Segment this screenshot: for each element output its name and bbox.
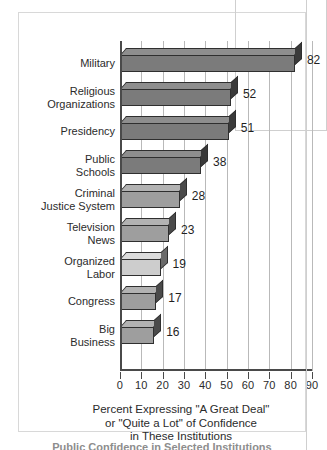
x-tick: [248, 372, 249, 379]
y-axis-line: [120, 41, 122, 371]
gridline: [312, 41, 313, 371]
bar-side-face: [201, 144, 208, 167]
bar-front-face: [120, 157, 201, 174]
bar: [120, 55, 295, 72]
axis-caption: Percent Expressing "A Great Deal" or "Qu…: [39, 403, 323, 444]
category-label-line: Religious: [19, 85, 115, 98]
bar-series: 825251382823191716: [120, 41, 312, 371]
bar-side-face: [169, 212, 176, 235]
bar-value-label: 82: [307, 53, 320, 67]
x-tick: [227, 372, 228, 379]
x-axis-tick-labels: 0102030405060708090: [120, 379, 312, 397]
bar-front-face: [120, 293, 156, 310]
bar-value-label: 51: [241, 121, 254, 135]
x-tick-label: 90: [299, 379, 325, 391]
category-label-line: Criminal: [19, 187, 115, 200]
bar: [120, 157, 201, 174]
category-label-line: Justice System: [19, 200, 115, 213]
x-tick: [205, 372, 206, 379]
bar: [120, 259, 161, 276]
category-label: PublicSchools: [19, 153, 115, 178]
bar-top-face: [120, 252, 167, 259]
bar-row: 16: [120, 319, 312, 353]
bar: [120, 225, 169, 242]
category-label-line: Public: [19, 153, 115, 166]
category-label-line: Presidency: [19, 125, 115, 138]
category-label: Presidency: [19, 125, 115, 138]
bar-top-face: [120, 82, 237, 89]
bar-top-face: [120, 116, 235, 123]
category-label-line: Labor: [19, 268, 115, 281]
bar-front-face: [120, 123, 229, 140]
bar-side-face: [295, 42, 302, 65]
category-label-line: Organized: [19, 255, 115, 268]
bar-value-label: 28: [192, 189, 205, 203]
bar: [120, 293, 156, 310]
x-tick: [291, 372, 292, 379]
bar-front-face: [120, 259, 161, 276]
bar: [120, 191, 180, 208]
x-tick: [120, 372, 121, 379]
caption-line-1: Percent Expressing "A Great Deal": [39, 403, 323, 417]
category-label-line: Television: [19, 221, 115, 234]
category-label: Military: [19, 57, 115, 70]
bar-row: 28: [120, 183, 312, 217]
category-label: CriminalJustice System: [19, 187, 115, 212]
bar-value-label: 16: [166, 325, 179, 339]
x-tick: [141, 372, 142, 379]
bar-row: 52: [120, 81, 312, 115]
x-axis-ticks: [120, 371, 312, 379]
bar-row: 51: [120, 115, 312, 149]
bar-row: 82: [120, 47, 312, 81]
x-tick: [269, 372, 270, 379]
bar-row: 38: [120, 149, 312, 183]
category-label-line: Military: [19, 57, 115, 70]
bar-side-face: [156, 280, 163, 303]
bar: [120, 327, 154, 344]
category-label-line: Schools: [19, 166, 115, 179]
plot-area: 825251382823191716 0102030405060708090: [120, 41, 312, 371]
category-label-line: Organizations: [19, 98, 115, 111]
bar-side-face: [154, 314, 161, 337]
bar-front-face: [120, 225, 169, 242]
x-tick: [184, 372, 185, 379]
category-label: ReligiousOrganizations: [19, 85, 115, 110]
bar-front-face: [120, 55, 295, 72]
bar-value-label: 52: [243, 87, 256, 101]
bar: [120, 123, 229, 140]
bar-value-label: 17: [168, 291, 181, 305]
category-label: Congress: [19, 295, 115, 308]
bar-top-face: [120, 150, 207, 157]
figure-title-cropped: Public Confidence in Selected Institutio…: [0, 441, 324, 450]
category-label-line: Business: [19, 336, 115, 349]
category-axis-labels: MilitaryReligiousOrganizationsPresidency…: [19, 41, 115, 371]
bar-top-face: [120, 184, 186, 191]
bar-row: 23: [120, 217, 312, 251]
category-label: TelevisionNews: [19, 221, 115, 246]
bar-row: 19: [120, 251, 312, 285]
bar-front-face: [120, 191, 180, 208]
category-label-line: News: [19, 234, 115, 247]
bar-value-label: 19: [173, 257, 186, 271]
chart-panel: MilitaryReligiousOrganizationsPresidency…: [18, 12, 306, 432]
bar-top-face: [120, 48, 301, 55]
category-label-line: Congress: [19, 295, 115, 308]
bar-front-face: [120, 89, 231, 106]
category-label: OrganizedLabor: [19, 255, 115, 280]
category-label-line: Big: [19, 323, 115, 336]
category-label: BigBusiness: [19, 323, 115, 348]
bar-front-face: [120, 327, 154, 344]
bar-value-label: 23: [181, 223, 194, 237]
bar-row: 17: [120, 285, 312, 319]
bar-value-label: 38: [213, 155, 226, 169]
bar-top-face: [120, 218, 175, 225]
bar: [120, 89, 231, 106]
x-tick: [163, 372, 164, 379]
caption-line-2: or "Quite a Lot" of Confidence: [39, 417, 323, 431]
x-tick: [312, 372, 313, 379]
